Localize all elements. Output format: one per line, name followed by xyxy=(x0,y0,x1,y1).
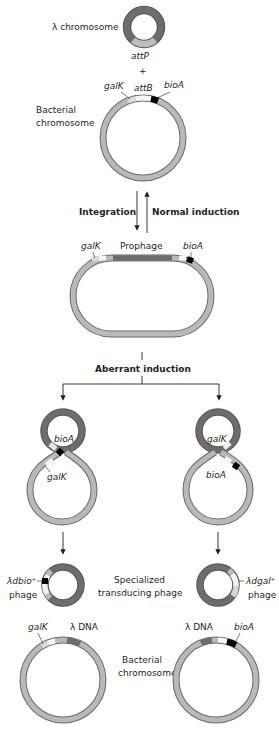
bioA-label-left-eight: bioA xyxy=(54,434,74,444)
lambda-dgal-phage-label: phage xyxy=(248,590,277,600)
bioA-label-bottom: bioA xyxy=(234,622,254,632)
galK-label-left-eight: galK xyxy=(47,472,68,482)
specialized-label-1: Specialized xyxy=(114,575,165,585)
right-figure-eight xyxy=(186,412,250,522)
prophage-chromosome xyxy=(73,258,211,334)
normal-induction-label: Normal induction xyxy=(152,207,239,217)
lambda-dgal-label: λdgal+ xyxy=(245,576,275,586)
bacterial-chromosome-top xyxy=(103,98,183,178)
galK-label-right-eight: galK xyxy=(207,434,228,444)
left-figure-eight xyxy=(30,412,94,522)
bacterial-chromosome-label-1: Bacterial xyxy=(36,105,76,115)
galK-label-top: galK xyxy=(104,81,125,91)
attB-label: attB xyxy=(134,83,153,93)
lambda-dna-label-left: λ DNA xyxy=(70,622,99,632)
galK-label-bottom: galK xyxy=(28,622,49,632)
prophage-label: Prophage xyxy=(120,241,163,251)
aberrant-induction-branch xyxy=(63,352,219,398)
lambda-chromosome-label: λ chromosome xyxy=(52,22,119,32)
lambda-dbio-label: λdbio+ xyxy=(6,576,36,586)
lambda-dbio-phage-label: phage xyxy=(9,590,38,600)
lambda-chromosome xyxy=(127,10,161,44)
bottom-right-chromosome xyxy=(176,640,256,720)
lambda-dgal-phage xyxy=(200,567,236,603)
specialized-label-2: transducing phage xyxy=(98,588,183,598)
bacterial-chromosome-bottom-1: Bacterial xyxy=(122,655,162,665)
plus-sign: + xyxy=(139,66,147,76)
attP-label: attP xyxy=(131,51,150,61)
bacterial-chromosome-bottom-2: chromosome xyxy=(118,668,177,678)
bioA-label-top: bioA xyxy=(164,80,184,90)
specialized-transduction-diagram: λ chromosome attP + galK attB bioA Bacte… xyxy=(0,0,279,737)
bioA-label-right-eight: bioA xyxy=(206,470,226,480)
galK-label-prophage: galK xyxy=(81,241,102,251)
lambda-dbio-phage xyxy=(42,567,81,603)
aberrant-induction-label: Aberrant induction xyxy=(95,364,191,374)
bacterial-chromosome-label-2: chromosome xyxy=(36,118,95,128)
bottom-left-chromosome xyxy=(23,640,103,720)
bioA-label-prophage: bioA xyxy=(183,241,203,251)
lambda-dna-label-right: λ DNA xyxy=(185,622,214,632)
integration-label: Integration xyxy=(79,207,136,217)
